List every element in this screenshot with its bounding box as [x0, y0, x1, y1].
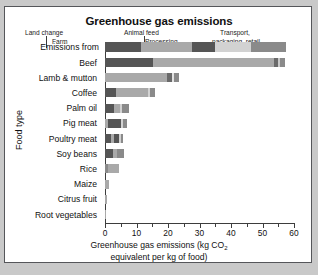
x-tick: [184, 223, 185, 227]
y-axis-title: Food type: [14, 70, 24, 190]
x-tick: [247, 223, 248, 227]
y-axis-label: Pig meat: [63, 119, 97, 128]
legend-segment-0: [105, 42, 141, 52]
chart-panel: Greenhouse gas emissions Land change Far…: [4, 6, 312, 263]
x-tick: [278, 223, 279, 227]
plot-area: [105, 52, 294, 220]
bar-row: [105, 88, 155, 97]
bar-row: [105, 73, 179, 82]
y-axis-label: Maize: [74, 180, 97, 189]
bar-row: [105, 164, 119, 173]
legend-label-land-change: Land change: [25, 29, 63, 37]
y-axis-label: Root vegetables: [35, 211, 97, 220]
bar-segment: [121, 134, 124, 143]
bar-row: [105, 104, 129, 113]
bar-segment: [150, 88, 155, 97]
legend-label-transport-line1: Transport,: [205, 29, 265, 37]
y-axis-label: Rice: [80, 165, 97, 174]
bar-segment: [280, 58, 284, 67]
bar-segment: [108, 119, 121, 128]
bar-segment: [108, 164, 120, 173]
x-tick-label: 30: [190, 228, 210, 238]
bar-row: [105, 195, 107, 204]
bar-segment: [105, 149, 113, 158]
co2-subscript: 2: [224, 245, 227, 251]
bar-segment: [116, 88, 148, 97]
legend-segment-4: [251, 42, 286, 52]
x-axis-title-line1: Greenhouse gas emissions (kg CO2: [5, 240, 313, 252]
x-axis-title: Greenhouse gas emissions (kg CO2equivale…: [5, 240, 313, 262]
bar-segment: [153, 58, 273, 67]
legend-segment-2: [192, 42, 216, 52]
legend-label-animal-feed: Animal feed: [124, 29, 159, 37]
bar-row: [105, 149, 124, 158]
bar-row: [105, 58, 285, 67]
x-tick-label: 20: [158, 228, 178, 238]
y-axis-label: Soy beans: [56, 150, 97, 159]
bar-segment: [105, 180, 109, 189]
y-axis-label: Lamb & mutton: [39, 74, 97, 83]
x-tick: [121, 223, 122, 227]
bar-row: [105, 180, 109, 189]
x-axis-title-line2: equivalent per kg of food): [5, 252, 313, 263]
chart-title: Greenhouse gas emissions: [5, 15, 313, 27]
x-tick: [152, 223, 153, 227]
x-tick-label: 60: [284, 228, 304, 238]
bar-segment: [122, 104, 129, 113]
bar-segment: [105, 88, 116, 97]
y-axis-label: Citrus fruit: [58, 195, 97, 204]
bar-segment: [105, 195, 107, 204]
bar-segment: [105, 73, 167, 82]
key-bar-row-label: Emissions from: [0, 43, 99, 52]
screenshot-root: Greenhouse gas emissions Land change Far…: [0, 0, 318, 275]
bar-segment: [121, 149, 124, 158]
y-axis-label: Poultry meat: [49, 135, 97, 144]
y-axis-label: Palm oil: [66, 104, 97, 113]
bar-segment: [105, 210, 106, 219]
legend-segment-3: [215, 42, 251, 52]
bar-row: [105, 134, 123, 143]
x-tick-label: 40: [221, 228, 241, 238]
x-tick-label: 0: [95, 228, 115, 238]
bar-row: [105, 119, 127, 128]
y-axis-label: Coffee: [72, 89, 97, 98]
x-tick: [215, 223, 216, 227]
bar-segment: [123, 119, 127, 128]
legend-segment-1: [141, 42, 191, 52]
bar-segment: [105, 104, 114, 113]
y-axis-label: Beef: [79, 59, 97, 68]
bar-segment: [105, 58, 153, 67]
bar-segment: [174, 73, 179, 82]
bar-row: [105, 210, 106, 219]
x-tick-label: 50: [253, 228, 273, 238]
x-tick-label: 10: [127, 228, 147, 238]
legend-key-bar: [105, 42, 294, 52]
